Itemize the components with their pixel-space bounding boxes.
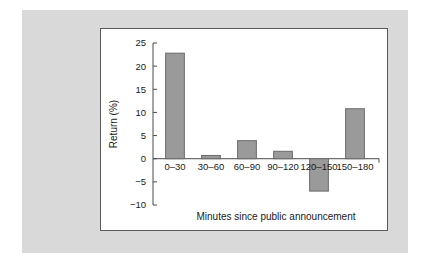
bar-60-90: [238, 141, 257, 159]
chart-screenshot: 2520151050−5−100–3030–6060–9090–120120–1…: [0, 0, 430, 266]
y-tick-label: 0: [141, 153, 146, 164]
y-tick-label: 10: [135, 107, 146, 118]
bar-90-120: [274, 151, 293, 158]
y-axis-title: Return (%): [108, 100, 119, 148]
bar-0-30: [166, 53, 185, 159]
chart-area: 2520151050−5−100–3030–6060–9090–120120–1…: [101, 29, 387, 230]
y-tick-label: 25: [135, 37, 146, 48]
x-category-label: 120–150: [301, 161, 338, 172]
x-axis-title: Minutes since public announcement: [197, 211, 356, 222]
y-tick-label: 5: [141, 130, 146, 141]
y-tick-label: −5: [135, 176, 146, 187]
y-tick-label: 20: [135, 61, 146, 72]
bar-150-180: [346, 109, 365, 159]
x-category-label: 30–60: [198, 161, 224, 172]
plot-panel: 2520151050−5−100–3030–6060–9090–120120–1…: [100, 28, 388, 231]
x-category-label: 60–90: [234, 161, 260, 172]
bar-30-60: [202, 155, 221, 158]
x-category-label: 0–30: [164, 161, 185, 172]
x-category-label: 90–120: [267, 161, 299, 172]
y-tick-label: −10: [130, 199, 146, 210]
y-tick-label: 15: [135, 84, 146, 95]
bar-chart: 2520151050−5−100–3030–6060–9090–120120–1…: [101, 29, 387, 230]
x-category-label: 150–180: [337, 161, 374, 172]
